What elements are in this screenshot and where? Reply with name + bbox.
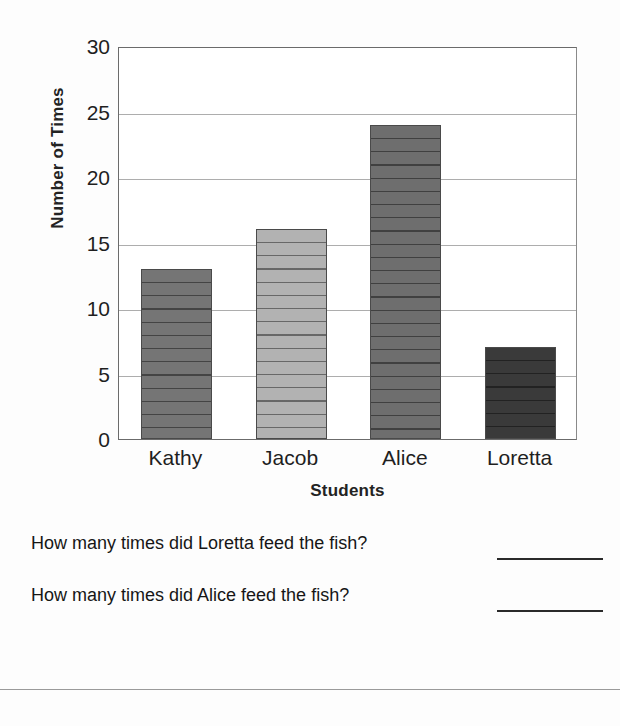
x-tick-label-loretta: Loretta [462, 446, 577, 470]
answer-blank-field[interactable] [497, 558, 603, 560]
bar-hatch-pattern [142, 270, 211, 438]
bar-alice [370, 125, 441, 439]
x-tick-label-alice: Alice [348, 446, 463, 470]
x-axis-title: Students [118, 481, 577, 501]
question-text: How many times did Alice feed the fish? [31, 585, 349, 606]
bar-jacob [256, 229, 327, 439]
worksheet-page: Number of Times 051015202530 KathyJacobA… [0, 0, 620, 726]
bar-kathy [141, 269, 212, 439]
gridline [119, 114, 576, 115]
y-tick-label: 15 [87, 232, 110, 256]
question-row: How many times did Alice feed the fish? [0, 574, 620, 626]
y-tick-label: 5 [98, 363, 110, 387]
x-axis-tick-labels: KathyJacobAliceLoretta [118, 446, 577, 478]
gridline [119, 245, 576, 246]
question-row: How many times did Loretta feed the fish… [0, 522, 620, 574]
bottom-divider [0, 689, 620, 690]
bar-hatch-pattern [486, 348, 555, 438]
gridline [119, 179, 576, 180]
y-axis-tick-labels: 051015202530 [58, 47, 110, 440]
plot-area [118, 47, 577, 440]
y-tick-label: 10 [87, 297, 110, 321]
y-tick-label: 25 [87, 101, 110, 125]
x-tick-label-kathy: Kathy [118, 446, 233, 470]
x-tick-label-jacob: Jacob [233, 446, 348, 470]
bar-hatch-pattern [257, 230, 326, 438]
bar-loretta [485, 347, 556, 439]
bar-hatch-pattern [371, 126, 440, 438]
bar-chart-figure: Number of Times 051015202530 KathyJacobA… [0, 0, 620, 500]
answer-blank-field[interactable] [497, 610, 603, 612]
y-tick-label: 0 [98, 428, 110, 452]
question-text: How many times did Loretta feed the fish… [31, 533, 367, 554]
y-tick-label: 20 [87, 166, 110, 190]
y-tick-label: 30 [87, 35, 110, 59]
questions-section: How many times did Loretta feed the fish… [0, 522, 620, 626]
